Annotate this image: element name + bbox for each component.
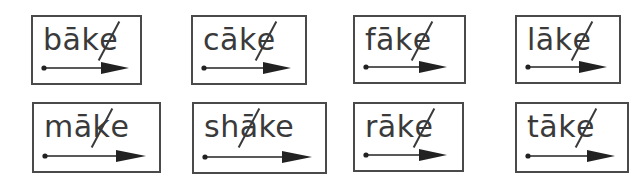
silent-e-letter: e [576,110,595,144]
word-text: fāk [365,23,413,57]
right-arrow-icon [525,149,617,163]
silent-e-letter: e [257,23,276,57]
word-text: lāk [527,23,573,57]
word-card-rake: rāke [353,102,464,172]
silent-e-letter: e [99,23,118,57]
slashed-letter: k [93,110,111,144]
card-word: shāke [204,110,294,144]
silent-e-letter: e [573,23,592,57]
word-text: tāk [527,110,576,144]
card-word: cāke [203,23,276,57]
word-card-make: māke [32,102,161,173]
word-card-take: tāke [515,102,629,173]
right-arrow-icon [41,61,131,75]
word-card-cake: cāke [191,15,307,85]
right-arrow-icon [202,150,314,164]
right-arrow-icon [363,148,449,162]
card-word: bāke [43,23,118,57]
right-arrow-icon [363,60,449,74]
right-arrow-icon [525,60,609,74]
word-card-lake: lāke [515,15,621,84]
word-text: mā [44,110,93,144]
word-card-fake: fāke [353,15,466,84]
word-text-rest: ke [259,110,295,144]
silent-e-letter: e [415,110,434,144]
word-text: bāk [43,23,99,57]
word-text: rāk [365,110,415,144]
right-arrow-icon [201,61,293,75]
word-text: cāk [203,23,257,57]
right-arrow-icon [42,149,148,163]
word-card-shake: shāke [192,102,327,174]
silent-e-letter: e [413,23,432,57]
word-text-rest: e [110,110,129,144]
card-word: tāke [527,110,595,144]
word-text: sh [204,110,240,144]
card-word: fāke [365,23,432,57]
card-word: rāke [365,110,434,144]
card-word: lāke [527,23,592,57]
slashed-letter: ā [240,110,259,144]
card-word: māke [44,110,129,144]
word-card-bake: bāke [31,15,142,85]
